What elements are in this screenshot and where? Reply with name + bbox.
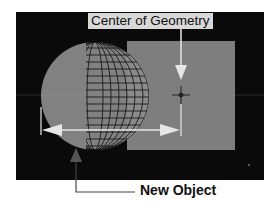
callout-line-bottom: [76, 155, 135, 192]
scene-illustration: [0, 0, 278, 205]
center-of-geometry-label: Center of Geometry: [88, 13, 213, 29]
new-object-label: New Object: [140, 181, 216, 199]
arrow-up-icon: [70, 148, 82, 162]
